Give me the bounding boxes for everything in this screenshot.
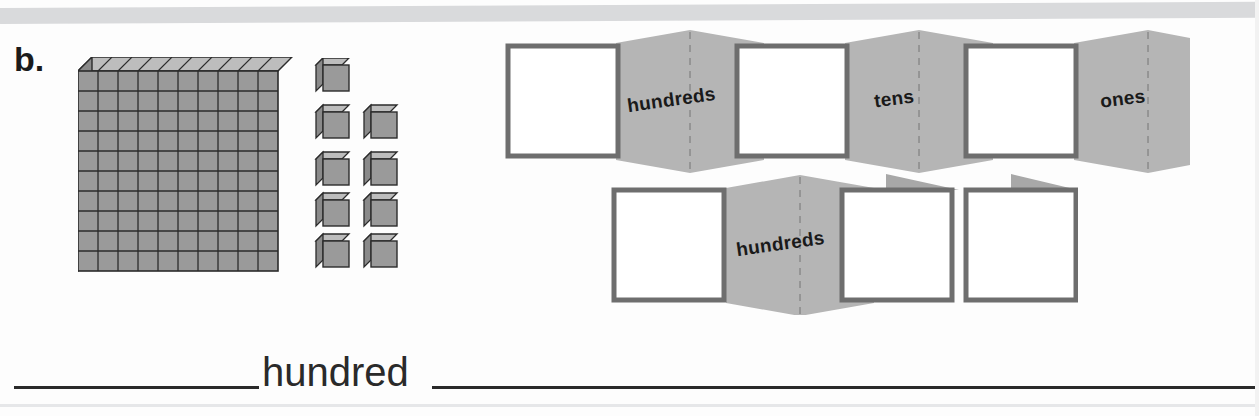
- answer-window: [614, 190, 724, 300]
- unit-cube: [364, 234, 397, 267]
- bottom-strip-svg: [578, 170, 1078, 315]
- answer-blank-left[interactable]: [14, 386, 259, 389]
- answer-window: [842, 190, 952, 300]
- unit-cubes-group: [312, 58, 404, 274]
- hundreds-flat-block: [78, 57, 293, 276]
- answer-blank-right[interactable]: [432, 386, 1259, 389]
- unit-cube: [316, 234, 349, 267]
- answer-window: [966, 46, 1076, 156]
- unit-cube: [316, 105, 349, 138]
- page-right-edge: [1255, 0, 1259, 416]
- answer-line-row: hundred: [0, 352, 1259, 400]
- top-decorative-band: [0, 2, 1259, 24]
- unit-cube: [364, 152, 397, 185]
- unit-cube: [364, 105, 397, 138]
- unit-cube: [316, 193, 349, 226]
- answer-window: [966, 190, 1076, 300]
- top-strip-svg: [500, 30, 1190, 175]
- unit-cube: [316, 152, 349, 185]
- hundreds-flat-svg: [78, 57, 293, 272]
- unit-cube: [364, 193, 397, 226]
- problem-letter: b.: [14, 40, 44, 79]
- unit-cubes-svg: [312, 58, 404, 270]
- place-value-strip-top[interactable]: hundreds tens ones: [500, 30, 1190, 175]
- answer-window: [737, 46, 847, 156]
- worksheet-page: b.: [0, 0, 1259, 416]
- answer-window: [508, 46, 618, 156]
- unit-cube: [316, 58, 349, 91]
- place-value-strip-bottom[interactable]: hundreds: [578, 170, 1078, 315]
- answer-word-hundred: hundred: [262, 350, 409, 395]
- page-bottom-rule: [0, 404, 1259, 407]
